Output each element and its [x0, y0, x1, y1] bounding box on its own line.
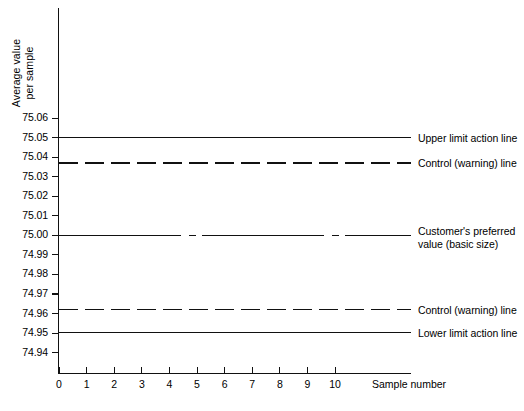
y-axis-line: [58, 8, 59, 374]
y-axis-tick: [52, 333, 59, 334]
control-line: [59, 235, 411, 237]
y-axis-tick: [52, 274, 59, 275]
x-axis-tick-label: 0: [46, 378, 72, 390]
control-line-annotation: Customer's preferred value (basic size): [418, 225, 524, 250]
y-axis-tick-label: 74.98: [4, 268, 48, 279]
y-axis-tick-label: 75.02: [4, 190, 48, 201]
control-line: [59, 309, 411, 311]
control-chart: Average value per sample 75.0675.0575.04…: [0, 0, 524, 411]
x-axis-tick-label: 4: [156, 378, 182, 390]
y-axis-tick: [52, 215, 59, 216]
y-axis-tick: [52, 157, 59, 158]
y-axis-tick-label: 75.03: [4, 171, 48, 182]
x-axis-tick-label: 1: [74, 378, 100, 390]
x-axis-tick-label: 6: [212, 378, 238, 390]
x-axis-tick-label: 2: [101, 378, 127, 390]
control-line-annotation: Upper limit action line: [418, 132, 524, 145]
x-axis-tick-label: 3: [129, 378, 155, 390]
x-axis-tick-label: 7: [239, 378, 265, 390]
x-axis-tick: [252, 367, 253, 374]
x-axis-tick: [197, 367, 198, 374]
x-axis-tick-label: 5: [184, 378, 210, 390]
y-axis-tick-label: 75.06: [4, 112, 48, 123]
y-axis-tick-label: 75.05: [4, 132, 48, 143]
y-axis-tick: [52, 293, 59, 294]
x-axis-tick: [307, 367, 308, 374]
control-line-annotation: Control (warning) line: [418, 304, 524, 317]
y-axis-tick: [52, 176, 59, 177]
x-axis-tick: [169, 367, 170, 374]
y-axis-tick: [52, 118, 59, 119]
control-line: [59, 162, 411, 164]
y-axis-tick: [52, 313, 59, 314]
y-axis-tick-label: 75.00: [4, 229, 48, 240]
y-axis-tick-label: 74.95: [4, 327, 48, 338]
control-line: [59, 137, 411, 138]
y-axis-tick-label: 74.99: [4, 249, 48, 260]
y-axis-tick-label: 74.97: [4, 288, 48, 299]
x-axis-tick-label: 10: [322, 378, 348, 390]
x-axis-tick: [335, 367, 336, 374]
control-line-annotation: Control (warning) line: [418, 157, 524, 170]
y-axis-tick-label: 75.04: [4, 151, 48, 162]
y-axis-tick: [52, 352, 59, 353]
x-axis-tick: [279, 367, 280, 374]
x-axis-tick-label: 9: [294, 378, 320, 390]
x-axis-tick: [59, 367, 60, 374]
y-axis-tick-label: 74.96: [4, 308, 48, 319]
y-axis-tick-label: 74.94: [4, 347, 48, 358]
x-axis-tick: [86, 367, 87, 374]
x-axis-tick: [224, 367, 225, 374]
x-axis-tick-label: 8: [267, 378, 293, 390]
y-axis-tick: [52, 254, 59, 255]
x-axis-title: Sample number: [372, 378, 446, 390]
x-axis-tick: [141, 367, 142, 374]
y-axis-tick-label: 75.01: [4, 210, 48, 221]
control-line: [59, 332, 411, 333]
x-axis-tick: [114, 367, 115, 374]
y-axis-tick: [52, 196, 59, 197]
x-axis-line: [58, 373, 411, 374]
y-axis-tick: [52, 137, 59, 138]
y-axis-tick: [52, 235, 59, 236]
control-line-annotation: Lower limit action line: [418, 327, 524, 340]
